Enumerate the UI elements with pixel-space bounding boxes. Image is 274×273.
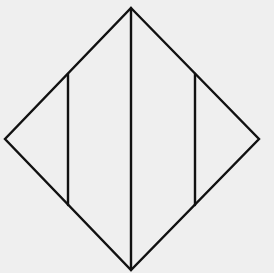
diamond-diagram xyxy=(0,0,274,273)
